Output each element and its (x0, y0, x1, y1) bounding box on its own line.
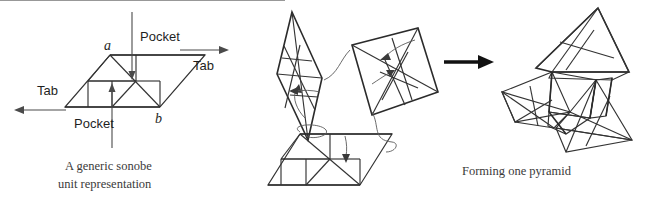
pocket-top-pointer (129, 12, 136, 80)
sonobe-internal-creases (65, 55, 205, 107)
right-panel-pyramid: Forming one pyramid (462, 8, 632, 178)
label-pocket-bottom: Pocket (74, 116, 114, 131)
tab-left-pointer (14, 106, 66, 114)
middle-panel-assembly (0, 0, 438, 185)
label-vertex-a: a (104, 38, 111, 53)
right-caption: Forming one pyramid (462, 164, 572, 178)
left-caption-line2: unit representation (58, 177, 152, 191)
label-tab-right: Tab (193, 58, 214, 73)
left-caption-line1: A generic sonobe (65, 159, 152, 173)
figure-root: Pocket Pocket Tab Tab a b A generic sono… (0, 0, 650, 203)
label-pocket-top: Pocket (140, 29, 180, 44)
transition-arrow (444, 55, 494, 69)
label-vertex-b: b (155, 111, 162, 126)
label-tab-left: Tab (37, 83, 58, 98)
pyramid-flap-top (536, 8, 629, 72)
unit-light-bottom (268, 134, 392, 185)
figure-canvas: Pocket Pocket Tab Tab a b A generic sono… (0, 0, 650, 203)
connector-dark-to-mid (324, 50, 350, 80)
left-panel-unit: Pocket Pocket Tab Tab a b A generic sono… (14, 12, 229, 191)
unit-light-bottom-creases (268, 134, 392, 185)
assembly-connector-curves (297, 50, 396, 152)
unit-mid-right (352, 28, 438, 115)
tab-right-pointer (180, 46, 229, 54)
